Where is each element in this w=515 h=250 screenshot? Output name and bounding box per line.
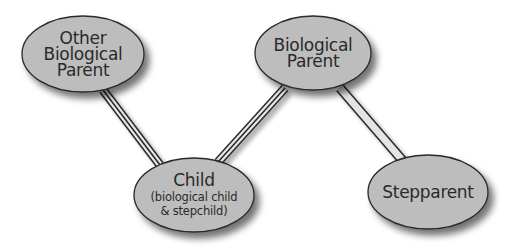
edge-bio-parent-to-child bbox=[218, 88, 285, 162]
family-diagram bbox=[0, 0, 515, 250]
node-other-biological-parent bbox=[22, 16, 144, 92]
node-biological-parent bbox=[255, 16, 371, 90]
node-stepparent bbox=[368, 155, 488, 229]
node-child bbox=[134, 158, 254, 232]
edge-bio-parent-to-stepparent bbox=[340, 88, 403, 161]
edge-other-parent-to-child bbox=[103, 90, 160, 165]
